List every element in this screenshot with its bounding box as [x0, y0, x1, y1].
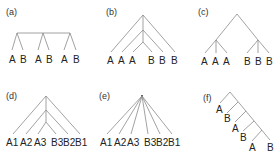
leaf-label: A: [232, 123, 239, 134]
leaf-label: B2: [156, 137, 169, 148]
leaf-label: A: [35, 54, 42, 65]
leaf-label: A: [61, 54, 68, 65]
leaf-label: B: [244, 56, 251, 67]
leaf-label: B1: [168, 137, 181, 148]
leaf-label: B: [148, 55, 155, 66]
leaf-label: B: [266, 56, 273, 67]
leaf-label: A: [107, 55, 114, 66]
leaf-label: B: [171, 55, 178, 66]
leaf-label: A: [216, 104, 223, 115]
leaf-label: A: [223, 56, 230, 67]
panel-a: (a) A B A B A B: [6, 7, 80, 65]
leaf-label: A2: [114, 137, 127, 148]
leaf-label: B: [240, 132, 247, 143]
panel-c: (c) A A A B B B: [198, 7, 273, 67]
leaf-label: A1: [100, 137, 113, 148]
panel-label-b: (b): [106, 7, 117, 17]
leaf-label: A3: [34, 137, 47, 148]
leaf-label: B: [73, 54, 80, 65]
leaf-label: B1: [75, 137, 88, 148]
leaf-label: B3: [144, 137, 157, 148]
leaf-label: A1: [6, 137, 19, 148]
leaf-label: B3: [51, 137, 64, 148]
panel-label-a: (a): [6, 7, 17, 17]
leaf-label: B: [224, 113, 231, 124]
leaf-label: A: [201, 56, 208, 67]
panel-f: (f) A B A B A B: [203, 92, 274, 153]
leaf-label: B2: [63, 137, 76, 148]
leaf-label: A: [9, 54, 16, 65]
leaf-label: A: [212, 56, 219, 67]
leaf-label: B: [20, 54, 27, 65]
leaf-label: A: [249, 142, 256, 153]
panel-b: (b) A A A B B B: [106, 7, 178, 66]
panel-label-e: (e): [99, 91, 110, 101]
panel-label-f: (f): [203, 93, 212, 103]
tree-figure: (a) A B A B A B (b) A A A B B B (c): [0, 0, 277, 167]
leaf-label: A2: [20, 137, 33, 148]
leaf-label: B: [255, 56, 262, 67]
leaf-label: B: [267, 142, 274, 153]
leaf-label: A: [118, 55, 125, 66]
leaf-label: B: [46, 54, 53, 65]
leaf-label: B: [159, 55, 166, 66]
leaf-label: A: [129, 55, 136, 66]
panel-e: (e) A1 A2 A3 B3 B2 B1: [99, 91, 181, 148]
panel-label-c: (c): [198, 7, 209, 17]
leaf-label: A3: [127, 137, 140, 148]
panel-d: (d) A1 A2 A3 B3 B2 B1: [6, 91, 88, 148]
panel-label-d: (d): [6, 91, 17, 101]
